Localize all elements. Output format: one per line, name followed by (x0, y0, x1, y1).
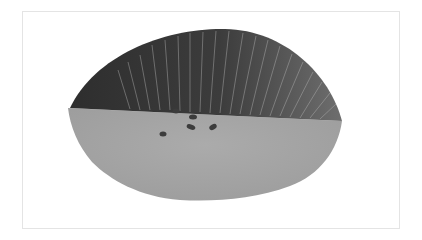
striated-fracture-zone (70, 29, 342, 121)
specimen-photo (0, 0, 422, 240)
granular-fracture-zone (68, 108, 342, 201)
